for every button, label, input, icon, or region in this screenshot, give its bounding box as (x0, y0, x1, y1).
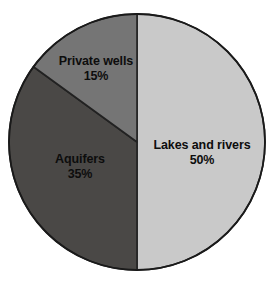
pie-label-lakes-and-rivers: Lakes and rivers 50% (148, 138, 256, 167)
pie-label-aquifers-value: 35% (38, 167, 122, 182)
pie-label-lakes-and-rivers-value: 50% (148, 153, 256, 168)
pie-label-private-wells: Private wells 15% (50, 54, 142, 83)
pie-label-private-wells-name: Private wells (50, 54, 142, 69)
pie-chart-figure: Lakes and rivers 50% Aquifers 35% Privat… (0, 0, 270, 285)
pie-label-aquifers-name: Aquifers (38, 152, 122, 167)
pie-label-lakes-and-rivers-name: Lakes and rivers (148, 138, 256, 153)
pie-label-aquifers: Aquifers 35% (38, 152, 122, 181)
pie-label-private-wells-value: 15% (50, 69, 142, 84)
